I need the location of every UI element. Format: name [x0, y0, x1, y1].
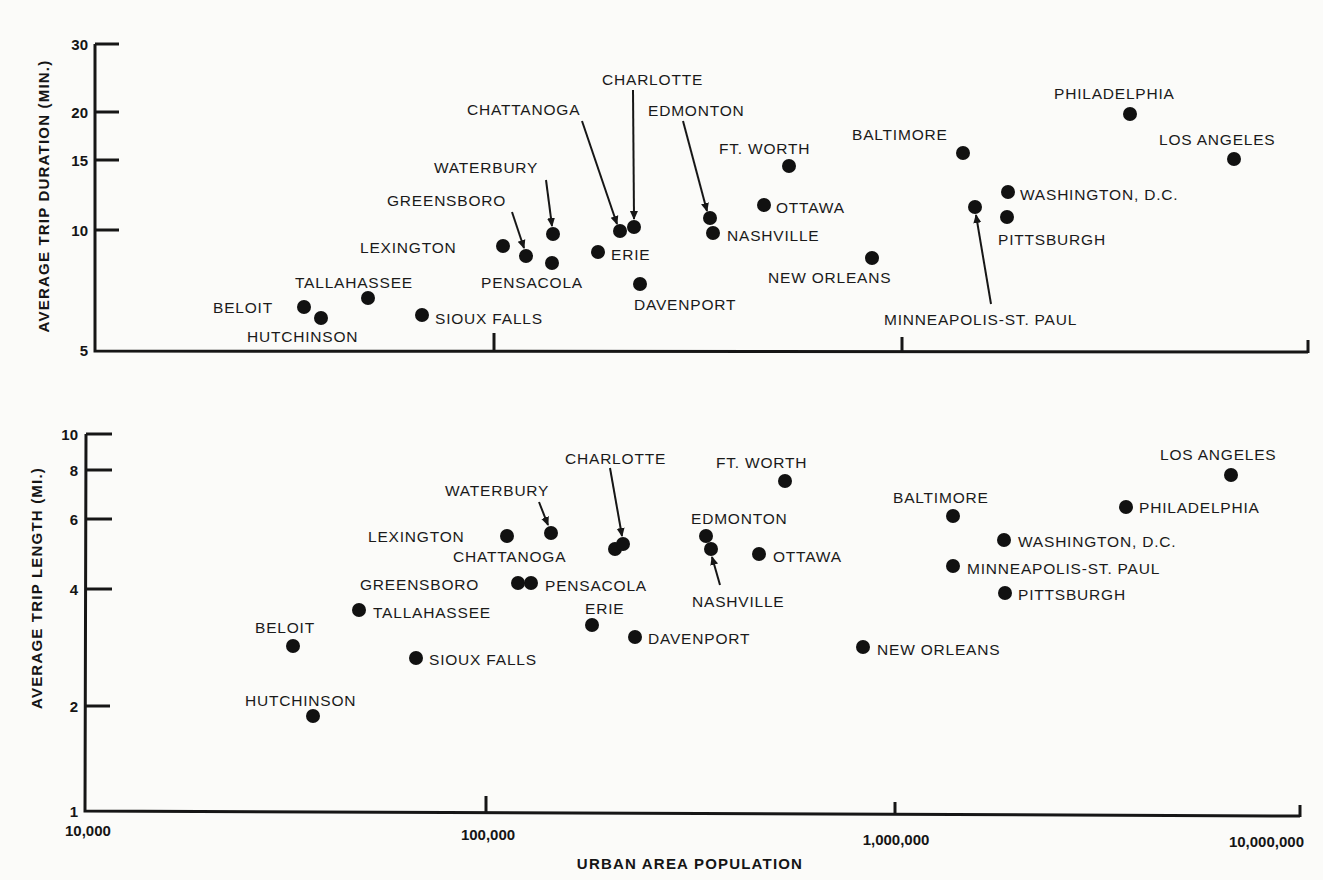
label-new-orleans: NEW ORLEANS: [768, 269, 891, 286]
point-tallahassee: [361, 291, 375, 305]
bottom-y-tick-2: 2: [70, 698, 78, 715]
label-ft-worth: FT. WORTH: [716, 454, 807, 471]
label-philadelphia: PHILADELPHIA: [1054, 85, 1175, 102]
point-los-angeles: [1224, 468, 1238, 482]
point-philadelphia: [1119, 500, 1133, 514]
x-tick-10000000: 10,000,000: [1229, 833, 1304, 850]
label-beloit: BELOIT: [213, 299, 273, 316]
label-greensboro: GREENSBORO: [387, 192, 506, 209]
bottom-y-axis-title: AVERAGE TRIP LENGTH (MI.): [28, 467, 45, 709]
point-baltimore: [956, 146, 970, 160]
label-lexington: LEXINGTON: [360, 239, 457, 256]
label-tallahassee: TALLAHASSEE: [295, 274, 413, 291]
label-waterbury: WATERBURY: [434, 159, 538, 176]
label-washington: WASHINGTON, D.C.: [1018, 533, 1176, 550]
label-pittsburgh: PITTSBURGH: [998, 231, 1106, 248]
top-leader-arrows: [512, 90, 991, 304]
point-ft-worth: [782, 159, 796, 173]
point-davenport: [628, 630, 642, 644]
point-chattanoga: [613, 224, 627, 238]
bottom-city-labels: BELOIT HUTCHINSON TALLAHASSEE SIOUX FALL…: [245, 446, 1277, 709]
label-los-angeles: LOS ANGELES: [1160, 446, 1277, 463]
label-ottawa: OTTAWA: [773, 548, 842, 565]
top-y-tick-15: 15: [71, 152, 88, 169]
label-new-orleans: NEW ORLEANS: [877, 641, 1000, 658]
top-y-tick-20: 20: [71, 104, 88, 121]
point-ottawa: [757, 198, 771, 212]
label-beloit: BELOIT: [255, 619, 315, 636]
top-city-labels: BELOIT HUTCHINSON TALLAHASSEE SIOUX FALL…: [213, 71, 1276, 345]
bottom-y-axis: 10 8 6 4 2 1: [61, 426, 1300, 820]
label-hutchinson: HUTCHINSON: [247, 328, 358, 345]
label-waterbury: WATERBURY: [445, 482, 549, 499]
bottom-y-tick-1: 1: [70, 803, 78, 820]
label-greensboro: GREENSBORO: [360, 576, 479, 593]
label-chattanoga: CHATTANOGA: [467, 101, 580, 118]
label-hutchinson: HUTCHINSON: [245, 692, 356, 709]
point-charlotte: [616, 537, 630, 551]
point-new-orleans: [856, 640, 870, 654]
top-y-tick-5: 5: [80, 342, 88, 359]
label-minneapolis: MINNEAPOLIS-ST. PAUL: [967, 560, 1160, 577]
x-axis-title: URBAN AREA POPULATION: [577, 855, 803, 872]
point-washington: [997, 533, 1011, 547]
point-sioux-falls: [409, 651, 423, 665]
point-pensacola: [545, 256, 559, 270]
bottom-y-tick-6: 6: [70, 511, 78, 528]
point-new-orleans: [865, 251, 879, 265]
point-erie: [585, 618, 599, 632]
label-charlotte: CHARLOTTE: [602, 71, 703, 88]
label-nashville: NASHVILLE: [692, 593, 785, 610]
point-lexington: [496, 239, 510, 253]
point-charlotte: [627, 220, 641, 234]
label-edmonton: EDMONTON: [691, 510, 788, 527]
point-baltimore: [946, 509, 960, 523]
point-minneapolis: [946, 559, 960, 573]
label-davenport: DAVENPORT: [648, 630, 750, 647]
bottom-x-axis: 10,000 100,000 1,000,000 10,000,000 URBA…: [65, 796, 1304, 872]
x-tick-10000: 10,000: [65, 822, 111, 839]
label-davenport: DAVENPORT: [634, 296, 736, 313]
label-sioux-falls: SIOUX FALLS: [429, 651, 537, 668]
label-minneapolis: MINNEAPOLIS-ST. PAUL: [884, 311, 1077, 328]
bottom-chart-trip-length: AVERAGE TRIP LENGTH (MI.) 10 8 6 4 2 1 1…: [28, 426, 1304, 872]
label-chattanoga: CHATTANOGA: [453, 548, 566, 565]
x-tick-100000: 100,000: [461, 826, 515, 843]
point-beloit: [286, 639, 300, 653]
point-sioux-falls: [415, 308, 429, 322]
point-greensboro: [519, 249, 533, 263]
label-erie: ERIE: [585, 600, 624, 617]
point-tallahassee: [352, 603, 366, 617]
label-edmonton: EDMONTON: [648, 102, 745, 119]
label-baltimore: BALTIMORE: [893, 489, 989, 506]
point-davenport: [633, 277, 647, 291]
point-greensboro: [511, 576, 525, 590]
point-waterbury: [544, 526, 558, 540]
point-pittsburgh: [998, 586, 1012, 600]
label-charlotte: CHARLOTTE: [565, 450, 666, 467]
point-philadelphia: [1123, 107, 1137, 121]
label-pittsburgh: PITTSBURGH: [1018, 586, 1126, 603]
point-nashville: [706, 226, 720, 240]
point-lexington: [500, 529, 514, 543]
label-tallahassee: TALLAHASSEE: [373, 604, 491, 621]
bottom-y-tick-10: 10: [61, 426, 78, 443]
label-los-angeles: LOS ANGELES: [1159, 131, 1276, 148]
label-sioux-falls: SIOUX FALLS: [435, 310, 543, 327]
label-baltimore: BALTIMORE: [852, 126, 948, 143]
point-ottawa: [752, 547, 766, 561]
point-pensacola: [524, 576, 538, 590]
point-hutchinson: [306, 709, 320, 723]
point-erie: [591, 245, 605, 259]
point-hutchinson: [314, 311, 328, 325]
bottom-y-tick-8: 8: [70, 462, 78, 479]
x-tick-1000000: 1,000,000: [863, 831, 930, 848]
bottom-y-tick-4: 4: [70, 581, 79, 598]
point-edmonton: [699, 529, 713, 543]
point-edmonton: [703, 211, 717, 225]
point-ft-worth: [778, 474, 792, 488]
label-lexington: LEXINGTON: [368, 528, 465, 545]
label-ottawa: OTTAWA: [776, 199, 845, 216]
top-y-axis-title: AVERAGE TRIP DURATION (MIN.): [35, 60, 52, 333]
figure: AVERAGE TRIP DURATION (MIN.) 30 20 15 10…: [0, 0, 1323, 880]
